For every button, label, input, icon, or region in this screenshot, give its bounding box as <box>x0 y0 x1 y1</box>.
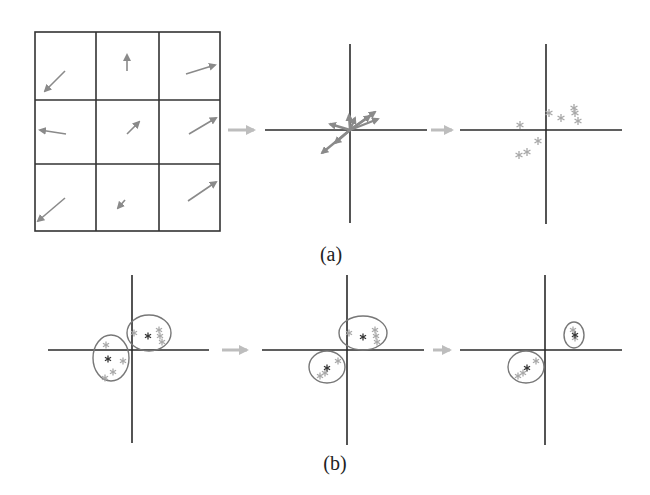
velocity-grid <box>35 32 220 231</box>
panel-b-label: (b) <box>323 452 346 475</box>
plot-iteration-1 <box>48 275 209 443</box>
point-star-icon <box>157 333 163 340</box>
point-star-icon <box>517 121 524 129</box>
vector-arrow-icon <box>118 200 125 208</box>
centroid-star-icon <box>360 334 366 341</box>
point-star-icon <box>374 339 380 346</box>
centroid-star-icon <box>105 356 111 363</box>
vector-arrow-icon <box>335 130 350 143</box>
point-star-icon <box>515 373 521 380</box>
point-star-icon <box>520 370 526 377</box>
vector-arrow-icon <box>127 122 139 134</box>
vector-arrow-icon <box>189 118 216 134</box>
flow-arrows-a <box>222 130 452 350</box>
point-star-icon <box>373 333 379 340</box>
point-star-icon <box>156 327 162 334</box>
point-star-icon <box>159 339 165 346</box>
panel-a-label: (a) <box>320 243 342 266</box>
plot-iteration-3 <box>460 275 622 445</box>
vector-arrow-icon <box>186 65 215 74</box>
scatter-plot <box>460 44 622 224</box>
clustering-plots <box>48 275 622 445</box>
point-star-icon <box>524 148 531 156</box>
centroid-star-icon <box>145 333 151 340</box>
point-star-icon <box>110 369 116 376</box>
vector-arrow-icon <box>38 198 65 221</box>
point-star-icon <box>317 373 323 380</box>
vector-arrow-icon <box>330 124 350 130</box>
point-star-icon <box>103 342 109 349</box>
vector-plot <box>265 44 427 223</box>
point-star-icon <box>516 151 523 159</box>
point-star-icon <box>535 137 542 145</box>
point-star-icon <box>558 114 565 122</box>
point-star-icon <box>571 104 578 112</box>
vector-arrow-icon <box>40 130 66 134</box>
vector-arrow-icon <box>45 71 65 91</box>
point-star-icon <box>575 117 582 125</box>
centroid-star-icon <box>524 365 530 372</box>
point-star-icon <box>372 327 378 334</box>
point-star-icon <box>120 358 126 365</box>
point-star-icon <box>533 358 539 365</box>
point-star-icon <box>572 109 579 117</box>
plot-iteration-2 <box>262 275 424 445</box>
point-star-icon <box>335 358 341 365</box>
vector-arrow-icon <box>188 182 216 201</box>
